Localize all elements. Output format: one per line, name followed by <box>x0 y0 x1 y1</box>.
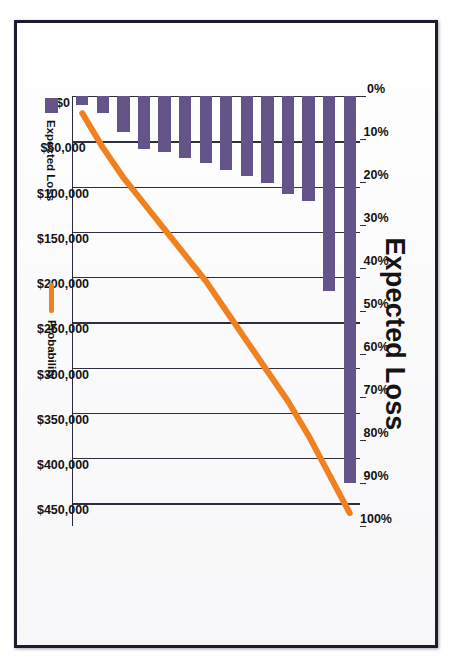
x-tick-label: 10% <box>363 125 388 139</box>
legend-bar-swatch-icon <box>45 98 58 113</box>
x-tick-label: 0% <box>367 82 385 96</box>
x-tick-mark <box>360 483 366 484</box>
x-tick-label: 70% <box>363 383 388 397</box>
x-tick-mark <box>360 526 366 527</box>
x-tick-mark <box>360 440 366 441</box>
figure-frame: Expected Loss $0$50,000$100,000$150,000$… <box>14 20 438 648</box>
y-tick-label: $0 <box>56 96 70 110</box>
x-tick-mark <box>360 354 366 355</box>
legend-label: Expected Loss <box>46 120 58 201</box>
x-tick-mark <box>360 96 366 97</box>
x-tick-label: 80% <box>363 426 388 440</box>
legend-item: Probability <box>46 283 58 379</box>
x-tick-label: 40% <box>363 254 388 268</box>
probability-line-series <box>72 96 360 526</box>
x-tick-label: 60% <box>363 340 388 354</box>
x-tick-label: 100% <box>360 512 392 526</box>
x-tick-mark <box>360 311 366 312</box>
chart-title: Expected Loss <box>379 34 410 634</box>
x-tick-mark <box>360 182 366 183</box>
legend-label: Probability <box>46 320 58 379</box>
screenshot-page: Expected Loss $0$50,000$100,000$150,000$… <box>0 0 460 660</box>
x-tick-label: 20% <box>363 168 388 182</box>
x-tick-mark <box>360 268 366 269</box>
x-tick-mark <box>360 139 366 140</box>
chart-legend: Expected LossProbability <box>32 98 58 528</box>
plot-area: $0$50,000$100,000$150,000$200,000$250,00… <box>72 96 360 526</box>
x-tick-label: 90% <box>363 469 388 483</box>
legend-item: Expected Loss <box>45 98 58 201</box>
x-tick-label: 50% <box>363 297 388 311</box>
legend-line-swatch-icon <box>50 283 55 313</box>
x-tick-label: 30% <box>363 211 388 225</box>
x-tick-mark <box>360 397 366 398</box>
rotated-chart-canvas: Expected Loss $0$50,000$100,000$150,000$… <box>28 34 424 634</box>
x-tick-mark <box>360 225 366 226</box>
